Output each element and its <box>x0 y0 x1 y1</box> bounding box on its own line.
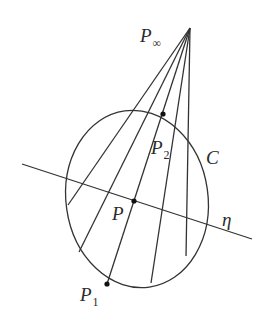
label-p: P <box>112 204 124 223</box>
point-p2 <box>160 111 165 116</box>
ray-3 <box>107 28 190 284</box>
label-p2-sub: 2 <box>164 148 170 162</box>
ray-1 <box>68 28 190 205</box>
point-p1 <box>104 281 109 286</box>
label-p-infinity: P∞ <box>140 26 160 45</box>
label-eta: η <box>222 210 231 229</box>
conic-c <box>54 101 219 297</box>
point-p <box>131 198 136 203</box>
diagram-canvas: P∞ P2 C P η P1 <box>0 0 271 322</box>
label-p2: P2 <box>151 138 169 157</box>
label-c: C <box>206 148 219 167</box>
label-p1-sub: 1 <box>93 295 99 309</box>
label-p-infinity-main: P <box>140 25 152 46</box>
diagram-svg <box>0 0 271 322</box>
label-p1: P1 <box>80 285 98 304</box>
label-p1-main: P <box>80 284 92 305</box>
label-p-infinity-sub: ∞ <box>153 36 162 50</box>
polar-line-eta <box>22 164 252 239</box>
label-p2-main: P <box>151 137 163 158</box>
